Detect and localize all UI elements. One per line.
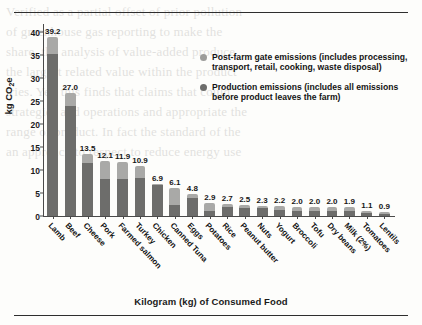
y-tick-label: 5 xyxy=(35,189,40,199)
bar-value-label: 2.0 xyxy=(326,197,337,206)
bar-slot[interactable]: 6.9Chicken xyxy=(149,24,166,216)
stacked-bar[interactable]: 2.9 xyxy=(204,203,215,216)
bar-value-label: 2.2 xyxy=(274,196,285,205)
bar-segment-production xyxy=(169,205,180,216)
y-axis-title: kg CO2e xyxy=(3,77,16,114)
x-tick-mark xyxy=(349,216,350,219)
stacked-bar[interactable]: 39.2 xyxy=(47,37,58,216)
stacked-bar[interactable]: 2.3 xyxy=(257,206,268,217)
x-tick-mark xyxy=(105,216,106,219)
legend: Post-farm gate emissions (includes proce… xyxy=(200,52,412,112)
x-tick-mark xyxy=(245,216,246,219)
x-tick-mark xyxy=(192,216,193,219)
bar-value-label: 6.1 xyxy=(169,178,180,187)
bar-segment-post-farm xyxy=(100,161,111,179)
stacked-bar[interactable]: 2.0 xyxy=(309,207,320,216)
x-tick-mark xyxy=(297,216,298,219)
emissions-chart-figure: kg CO2e 0510152025303540 39.2Lamb27.0Bee… xyxy=(0,0,422,325)
y-tick-mark xyxy=(40,32,43,33)
legend-swatch-icon xyxy=(200,54,207,61)
divider-top xyxy=(14,12,408,13)
bar-value-label: 6.9 xyxy=(152,174,163,183)
x-axis-line xyxy=(43,216,395,217)
bar-value-label: 2.3 xyxy=(257,196,268,205)
x-tick-label: Lamb xyxy=(46,221,67,243)
bar-segment-post-farm xyxy=(135,166,146,178)
bar-value-label: 2.7 xyxy=(222,194,233,203)
bar-value-label: 13.5 xyxy=(80,144,96,153)
y-tick-label: 15 xyxy=(31,143,40,153)
legend-swatch-icon xyxy=(200,84,207,91)
x-tick-mark xyxy=(88,216,89,219)
bar-slot[interactable]: 12.1Pork xyxy=(96,24,113,216)
bar-value-label: 1.1 xyxy=(361,201,372,210)
y-tick-mark xyxy=(40,124,43,125)
x-tick-mark xyxy=(53,216,54,219)
stacked-bar[interactable]: 12.1 xyxy=(100,161,111,216)
bar-segment-production xyxy=(65,106,76,216)
bar-value-label: 27.0 xyxy=(62,83,78,92)
bar-value-label: 4.8 xyxy=(187,184,198,193)
y-tick-mark xyxy=(40,147,43,148)
legend-label: Post-farm gate emissions (includes proce… xyxy=(212,52,412,73)
stacked-bar[interactable]: 2.5 xyxy=(239,205,250,216)
stacked-bar[interactable]: 11.9 xyxy=(117,162,128,216)
stacked-bar[interactable]: 2.0 xyxy=(327,207,338,216)
bar-segment-production xyxy=(47,54,58,216)
x-tick-mark xyxy=(384,216,385,219)
x-tick-mark xyxy=(280,216,281,219)
y-tick-label: 35 xyxy=(31,51,40,61)
bar-slot[interactable]: 4.8Eggs xyxy=(184,24,201,216)
bar-value-label: 11.9 xyxy=(115,152,130,161)
y-tick-label: 40 xyxy=(31,28,40,38)
x-tick-mark xyxy=(210,216,211,219)
bar-slot[interactable]: 39.2Lamb xyxy=(44,24,61,216)
bar-value-label: 2.0 xyxy=(292,197,303,206)
bar-slot[interactable]: 11.9Farmed salmon xyxy=(114,24,131,216)
y-tick-mark xyxy=(40,170,43,171)
stacked-bar[interactable]: 1.9 xyxy=(344,207,355,216)
bar-segment-production xyxy=(187,198,198,216)
x-tick-mark xyxy=(123,216,124,219)
bar-segment-production xyxy=(222,207,233,216)
x-tick-mark xyxy=(367,216,368,219)
bar-segment-post-farm xyxy=(169,188,180,205)
y-tick-mark xyxy=(40,216,43,217)
legend-item-post-farm: Post-farm gate emissions (includes proce… xyxy=(200,52,412,73)
bar-segment-production xyxy=(239,208,250,216)
bar-slot[interactable]: 27.0Beef xyxy=(61,24,78,216)
bar-segment-post-farm xyxy=(82,154,93,162)
bar-value-label: 39.2 xyxy=(45,27,61,36)
stacked-bar[interactable]: 4.8 xyxy=(187,194,198,216)
bar-value-label: 2.5 xyxy=(239,195,250,204)
stacked-bar[interactable]: 2.0 xyxy=(292,207,303,216)
stacked-bar[interactable]: 27.0 xyxy=(65,93,76,216)
stacked-bar[interactable]: 6.1 xyxy=(169,188,180,216)
bar-slot[interactable]: 10.9Turkey xyxy=(131,24,148,216)
bar-segment-post-farm xyxy=(117,162,128,179)
bar-slot[interactable]: 6.1Canned Tuna xyxy=(166,24,183,216)
y-tick-mark xyxy=(40,55,43,56)
stacked-bar[interactable]: 13.5 xyxy=(82,154,93,216)
stacked-bar[interactable]: 2.2 xyxy=(274,206,285,216)
bar-segment-production xyxy=(117,179,128,216)
bar-segment-post-farm xyxy=(47,37,58,54)
bar-slot[interactable]: 13.5Cheese xyxy=(79,24,96,216)
stacked-bar[interactable]: 2.7 xyxy=(222,204,233,216)
stacked-bar[interactable]: 10.9 xyxy=(135,166,146,216)
divider-bottom xyxy=(14,315,408,316)
y-tick-label: 25 xyxy=(31,97,40,107)
bar-segment-production xyxy=(152,185,163,216)
bar-value-label: 12.1 xyxy=(97,151,113,160)
bar-segment-post-farm xyxy=(204,203,215,211)
y-tick-mark xyxy=(40,101,43,102)
x-tick-mark xyxy=(332,216,333,219)
x-tick-mark xyxy=(157,216,158,219)
bar-value-label: 1.9 xyxy=(344,197,355,206)
bar-segment-production xyxy=(82,163,93,216)
y-tick-label: 0 xyxy=(35,212,40,222)
bar-value-label: 2.0 xyxy=(309,197,320,206)
bar-segment-production xyxy=(135,178,146,216)
bar-value-label: 2.9 xyxy=(204,193,215,202)
stacked-bar[interactable]: 6.9 xyxy=(152,184,163,216)
